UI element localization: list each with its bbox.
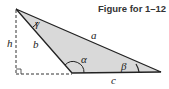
angle-beta-label: β: [121, 61, 126, 72]
right-angle-marker: [16, 69, 21, 74]
side-c-label: c: [111, 75, 116, 86]
height-h-label: h: [7, 38, 13, 49]
side-a-label: a: [91, 30, 97, 41]
angle-alpha-label: α: [81, 54, 87, 65]
figure-title: Figure for 1–12: [98, 3, 166, 14]
angle-gamma-label: γ: [35, 18, 39, 29]
side-b-label: b: [33, 39, 39, 50]
triangle-figure: Figure for 1–12 a b c h α β γ: [0, 0, 169, 89]
